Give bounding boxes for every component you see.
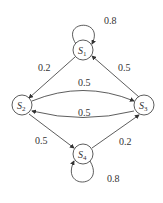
edge-label-s2-s3: 0.5 (78, 77, 91, 88)
node-s4: S4 (73, 144, 93, 164)
edge-label-s3-s1: 0.5 (118, 62, 131, 73)
node-s3: S3 (134, 95, 154, 115)
node-s1: S1 (73, 40, 93, 60)
node-s2: S2 (12, 95, 32, 115)
edge-label-s3-s2: 0.5 (78, 107, 91, 118)
edge-label-s1-s1: 0.8 (104, 15, 117, 26)
edge-label-s4-s3: 0.2 (119, 136, 132, 147)
edge-label-s2-s4: 0.5 (35, 135, 48, 146)
edge-s1-s2 (29, 57, 75, 98)
edge-label-s1-s2: 0.2 (38, 62, 51, 73)
edge-s2-s3 (32, 91, 134, 102)
edge-s4-s3 (92, 115, 139, 148)
edge-s3-s1 (92, 56, 139, 97)
edge-label-s4-s4: 0.8 (107, 173, 120, 184)
markov-diagram: 0.8 0.2 0.5 0.5 0.5 0.5 0.2 0.8 S1 S2 S3… (0, 0, 163, 203)
